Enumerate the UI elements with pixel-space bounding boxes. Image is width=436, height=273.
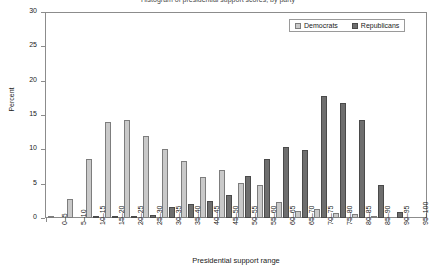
bar-group	[160, 13, 179, 218]
x-axis-tick-label: 35–40	[193, 206, 202, 225]
x-axis-tick-mark	[84, 218, 85, 222]
x-axis-tick-mark	[255, 218, 256, 222]
bar-group	[350, 13, 369, 218]
bar-republicans-75-80	[340, 103, 346, 218]
bars-layer	[46, 13, 426, 218]
x-axis-title: Presidential support range	[45, 256, 427, 265]
x-axis-tick-label: 75–80	[345, 206, 354, 225]
y-axis-tick-mark	[41, 218, 45, 219]
y-axis-title: Percent	[8, 65, 15, 135]
x-axis-tick-label: 30–35	[174, 206, 183, 225]
bar-republicans-80-85	[359, 120, 365, 218]
x-axis-tick-label: 0–5	[60, 213, 69, 225]
x-axis-tick-mark	[426, 218, 427, 222]
y-axis-tick: 0	[0, 218, 45, 219]
chart-title: Histogram of presidential support scores…	[0, 0, 436, 4]
bar-democrats-0-5	[48, 216, 54, 218]
x-axis-tick-label: 80–85	[364, 206, 373, 225]
x-axis-tick-label: 70–75	[326, 206, 335, 225]
x-axis-tick-mark	[331, 218, 332, 222]
x-axis-tick-mark	[198, 218, 199, 222]
legend-label-democrats: Democrats	[304, 22, 338, 29]
y-axis-tick-label: 25	[29, 41, 37, 48]
x-axis-tick-label: 40–45	[212, 206, 221, 225]
y-axis-tick: 10	[0, 149, 45, 150]
bar-group	[407, 13, 426, 218]
y-axis-tick-label: 0	[33, 213, 37, 220]
legend-item-republicans: Republicans	[352, 22, 400, 29]
x-axis-tick-label: 10–15	[98, 206, 107, 225]
bar-group	[103, 13, 122, 218]
bar-group	[369, 13, 388, 218]
x-axis-tick-label: 5–10	[79, 209, 88, 225]
legend-swatch-republicans-icon	[352, 23, 358, 29]
bar-group	[255, 13, 274, 218]
bar-group	[217, 13, 236, 218]
x-axis-tick-mark	[122, 218, 123, 222]
x-axis-tick-mark	[274, 218, 275, 222]
bar-group	[198, 13, 217, 218]
bar-chart: Histogram of presidential support scores…	[0, 0, 436, 273]
bar-group	[179, 13, 198, 218]
x-axis-tick-mark	[179, 218, 180, 222]
x-axis-tick-label: 60–65	[288, 206, 297, 225]
bar-republicans-70-75	[321, 96, 327, 218]
x-axis-tick-mark	[236, 218, 237, 222]
bar-group	[236, 13, 255, 218]
x-axis-tick-label: 20–25	[136, 206, 145, 225]
legend-label-republicans: Republicans	[361, 22, 400, 29]
x-axis-tick-label: 90–95	[402, 206, 411, 225]
x-axis-tick-mark	[293, 218, 294, 222]
x-axis-tick-label: 85–90	[383, 206, 392, 225]
bar-democrats-15-20	[105, 122, 111, 218]
x-axis-tick-mark	[369, 218, 370, 222]
x-axis-tick-mark	[350, 218, 351, 222]
x-axis-tick-label: 55–60	[269, 206, 278, 225]
x-axis-tick-mark	[407, 218, 408, 222]
y-axis-tick: 30	[0, 12, 45, 13]
bar-group	[84, 13, 103, 218]
bar-democrats-20-25	[124, 120, 130, 218]
legend-swatch-democrats-icon	[295, 23, 301, 29]
x-axis-tick-mark	[160, 218, 161, 222]
y-axis-tick-label: 30	[29, 7, 37, 14]
y-axis-tick: 25	[0, 46, 45, 47]
x-axis-tick-mark	[312, 218, 313, 222]
y-axis-tick: 15	[0, 115, 45, 116]
bar-group	[122, 13, 141, 218]
x-axis-tick-mark	[46, 218, 47, 222]
x-axis-tick-label: 65–70	[307, 206, 316, 225]
x-axis-tick-mark	[65, 218, 66, 222]
x-axis-tick-label: 15–20	[117, 206, 126, 225]
x-axis-tick-mark	[388, 218, 389, 222]
bar-group	[312, 13, 331, 218]
bar-group	[331, 13, 350, 218]
x-axis-tick-label: 45–50	[231, 206, 240, 225]
y-axis-tick: 20	[0, 81, 45, 82]
x-axis-tick-label: 95–100	[421, 202, 430, 225]
y-axis-tick-label: 20	[29, 76, 37, 83]
bar-group	[388, 13, 407, 218]
bar-group	[65, 13, 84, 218]
y-axis-tick-label: 5	[33, 179, 37, 186]
bar-group	[293, 13, 312, 218]
x-axis-tick-mark	[217, 218, 218, 222]
chart-legend: Democrats Republicans	[289, 19, 405, 32]
bar-group	[274, 13, 293, 218]
bar-group	[46, 13, 65, 218]
bar-group	[141, 13, 160, 218]
x-axis-tick-mark	[141, 218, 142, 222]
y-axis-tick-label: 10	[29, 144, 37, 151]
legend-item-democrats: Democrats	[295, 22, 338, 29]
x-axis-tick-mark	[103, 218, 104, 222]
x-axis-tick-label: 50–55	[250, 206, 259, 225]
x-axis-tick-label: 25–30	[155, 206, 164, 225]
y-axis-tick-label: 15	[29, 110, 37, 117]
y-axis-tick: 5	[0, 184, 45, 185]
